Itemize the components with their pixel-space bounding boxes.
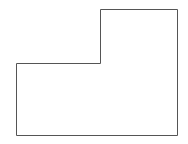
- diagram-canvas: [0, 0, 188, 144]
